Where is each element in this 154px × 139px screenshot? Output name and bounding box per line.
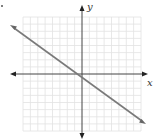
y-axis-down-arrow-icon [80, 133, 85, 139]
coordinate-plane [0, 0, 154, 139]
x-axis-label: x [147, 78, 153, 88]
x-axis-left-arrow-icon [10, 72, 16, 77]
y-axis-up-arrow-icon [80, 5, 85, 11]
x-axis-right-arrow-icon [142, 72, 148, 77]
y-axis-label: y [87, 2, 93, 12]
y-axis [80, 5, 85, 139]
